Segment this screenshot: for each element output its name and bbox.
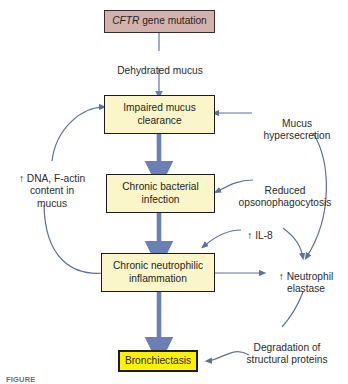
annotation-il8: ↑ IL-8 — [238, 218, 282, 242]
annotation-reduced-opsonophagocytosis: Reduced opsonophagocytosis — [224, 173, 346, 210]
node-mutation-text: CFTR gene mutation — [112, 15, 207, 27]
annotation-dehydrated-mucus: Dehydrated mucus — [108, 53, 212, 77]
node-cftr-gene-mutation[interactable]: CFTR gene mutation — [104, 10, 215, 33]
node-infection-label: Chronic bacterial infection — [122, 181, 198, 205]
annotation-mucus-hypersecretion: Mucus hypersecretion — [248, 106, 346, 143]
edge-il8-to-inflammation — [203, 230, 241, 247]
edge-clearance-loop-upper — [52, 107, 104, 161]
annotation-dna-factin: ↑ DNA, F-actin content in mucus — [8, 161, 96, 210]
node-inflammation-label: Chronic neutrophilic inflammation — [113, 260, 203, 284]
annotation-reduced-opsonophagocytosis-label: Reduced opsonophagocytosis — [239, 185, 332, 208]
annotation-mucus-hypersecretion-label: Mucus hypersecretion — [264, 118, 331, 141]
annotation-neutrophil-elastase-label: ↑ Neutrophil elastase — [279, 271, 333, 294]
annotation-neutrophil-elastase: ↑ Neutrophil elastase — [265, 259, 347, 296]
node-bronchiectasis[interactable]: Bronchiectasis — [118, 350, 198, 372]
edge-elastase-to-bronchiectasis — [282, 292, 303, 327]
annotation-il8-label: ↑ IL-8 — [247, 230, 272, 241]
node-impaired-mucus-clearance[interactable]: Impaired mucus clearance — [104, 95, 215, 134]
gene-rest: gene mutation — [139, 15, 206, 26]
annotation-degradation-structural-proteins: Degradation of structural proteins — [228, 330, 346, 367]
figure-caption: FIGURE — [6, 375, 36, 384]
node-clearance-label: Impaired mucus clearance — [123, 102, 195, 126]
gene-name: CFTR — [112, 15, 139, 26]
edge-inflammation-to-clearance-loop — [44, 205, 104, 273]
node-chronic-bacterial-infection[interactable]: Chronic bacterial infection — [106, 174, 215, 213]
edge-elastase-to-il8 — [283, 228, 303, 258]
annotation-degradation-label: Degradation of structural proteins — [247, 342, 328, 365]
figure-canvas: CFTR gene mutation Impaired mucus cleara… — [0, 0, 348, 384]
node-chronic-neutrophilic-inflammation[interactable]: Chronic neutrophilic inflammation — [101, 253, 215, 292]
annotation-dehydrated-mucus-label: Dehydrated mucus — [117, 65, 203, 76]
annotation-dna-factin-label: ↑ DNA, F-actin content in mucus — [19, 173, 85, 208]
node-bronchiectasis-label: Bronchiectasis — [125, 355, 191, 367]
